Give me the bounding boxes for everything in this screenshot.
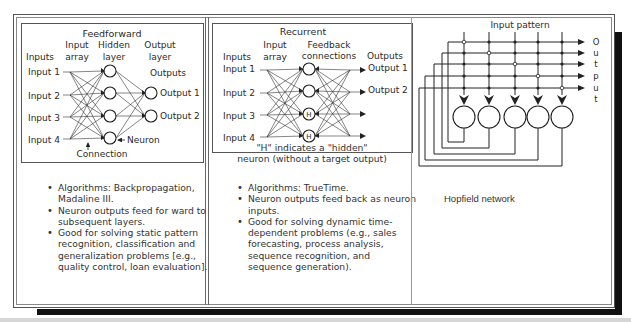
svg-text:Input: Input — [263, 40, 287, 50]
bottom-gray-bar — [0, 318, 631, 322]
neuron-icon — [303, 63, 315, 75]
output-label: Output 2 — [368, 85, 408, 95]
feedforward-diagram: Feedforward Input array Hidden layer Out… — [0, 0, 210, 170]
input-label: Input 2 — [223, 88, 255, 98]
svg-text:Output: Output — [144, 40, 176, 50]
input-label: Input 1 — [28, 67, 60, 77]
svg-text:p: p — [593, 71, 598, 81]
neuron-icon — [145, 87, 157, 99]
recurrent-title: Recurrent — [280, 26, 327, 37]
recurrent-diagram: Recurrent Input array Feedback connectio… — [205, 0, 415, 160]
panel-divider — [411, 17, 412, 305]
svg-text:connections: connections — [302, 51, 357, 61]
output-label: Output 1 — [160, 88, 200, 98]
svg-text:Inputs: Inputs — [223, 52, 251, 62]
connection-callout: Connection — [77, 149, 128, 159]
svg-text:Input: Input — [65, 40, 89, 50]
bullet-item: Neuron outputs feed back as neuron input… — [248, 193, 416, 216]
neuron-icon — [104, 110, 116, 122]
svg-text:Inputs: Inputs — [26, 52, 54, 62]
bullet-item: Good for solving static pattern recognit… — [58, 227, 208, 272]
svg-text:u: u — [593, 83, 598, 93]
svg-text:O: O — [593, 37, 600, 47]
input-label: Input 1 — [223, 64, 255, 74]
neuron-icon — [453, 106, 475, 128]
bullet-item: Neuron outputs feed for ward to subseque… — [58, 205, 208, 228]
svg-text:Hidden: Hidden — [98, 40, 130, 50]
svg-text:t: t — [594, 59, 598, 69]
neuron-icon — [104, 132, 116, 144]
input-label: Input 3 — [28, 113, 60, 123]
svg-text:array: array — [65, 52, 89, 62]
input-label: Input 2 — [28, 91, 60, 101]
svg-text:Outputs: Outputs — [367, 51, 403, 61]
neuron-icon — [527, 106, 549, 128]
feedforward-input-labels: Input 1 Input 2 Input 3 Input 4 — [28, 67, 60, 145]
neuron-icon — [504, 106, 526, 128]
neuron-icon — [303, 85, 315, 97]
hopfield-caption: Hopfield network — [444, 193, 515, 204]
input-label: Input 4 — [28, 135, 60, 145]
svg-text:array: array — [263, 52, 287, 62]
neuron-icon — [104, 65, 116, 77]
feedforward-title: Feedforward — [82, 28, 141, 39]
hopfield-output-label: O u t p u t — [593, 37, 600, 104]
neuron-icon — [478, 106, 500, 128]
svg-text:layer: layer — [149, 52, 172, 62]
recurrent-bullets: Algorithms: TrueTime. Neuron outputs fee… — [236, 182, 416, 272]
svg-text:Feedback: Feedback — [308, 40, 352, 50]
neuron-icon — [551, 106, 573, 128]
neuron-icon — [104, 87, 116, 99]
svg-text:H: H — [306, 133, 311, 141]
drop-shadow-bottom — [37, 309, 622, 315]
svg-text:H: H — [306, 111, 311, 119]
neuron-callout: Neuron — [127, 135, 160, 145]
feedforward-bullets: Algorithms: Backpropagation, Madaline II… — [46, 182, 208, 272]
drop-shadow-right — [615, 32, 622, 314]
hopfield-input-pattern-label: Input pattern — [490, 20, 549, 30]
svg-text:layer: layer — [103, 52, 126, 62]
hidden-note: "H" indicates a "hidden" neuron (without… — [212, 142, 412, 164]
bullet-item: Good for solving dynamic time-dependent … — [248, 216, 416, 272]
neuron-icon — [145, 110, 157, 122]
svg-text:t: t — [594, 94, 598, 104]
hopfield-diagram: Input pattern O u t — [410, 0, 615, 170]
bullet-item: Algorithms: Backpropagation, Madaline II… — [58, 182, 208, 205]
svg-text:Outputs: Outputs — [150, 68, 186, 78]
bullet-item: Algorithms: TrueTime. — [248, 182, 416, 193]
svg-text:u: u — [593, 48, 598, 58]
input-label: Input 3 — [223, 111, 255, 121]
output-label: Output 2 — [160, 111, 200, 121]
output-label: Output 1 — [368, 63, 408, 73]
